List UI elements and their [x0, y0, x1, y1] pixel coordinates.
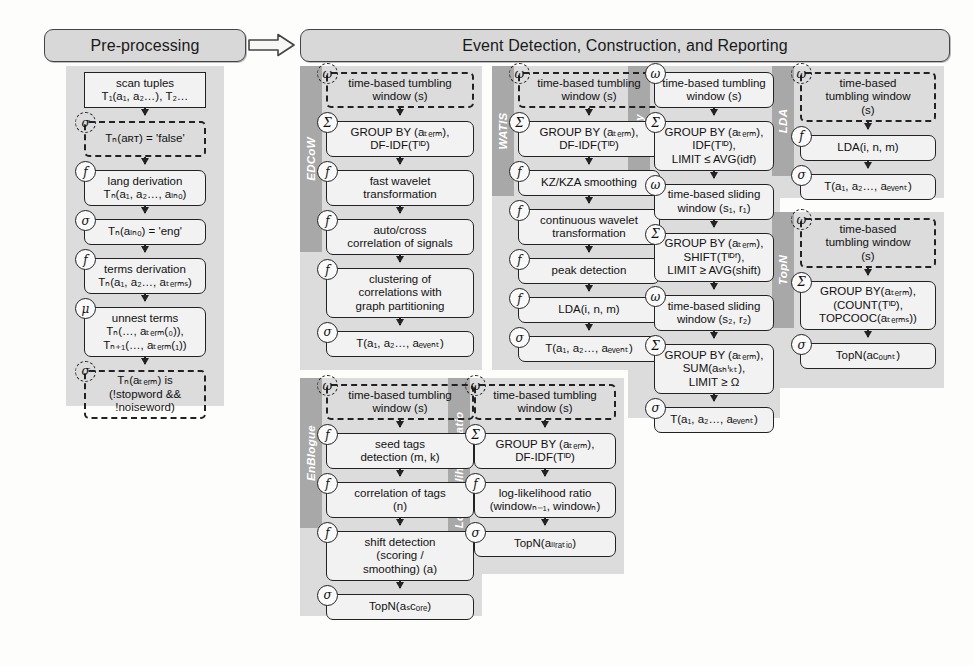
preprocessing-connector-6	[144, 357, 146, 364]
preprocessing-badge-4: f	[75, 249, 96, 270]
banner-preprocessing: Pre-processing	[44, 29, 246, 62]
col-enblogue-connector-4	[399, 581, 401, 588]
col-topn-badge-0: ω	[791, 209, 812, 230]
preprocessing-node-4-line-1: Tₙ(a₁, a₂…, aₜₑᵣₘₛ)	[98, 276, 192, 290]
col-edcow-badge-0: ω	[317, 63, 338, 84]
col-watis-node-0[interactable]: time-based tumblingwindow (s)	[518, 72, 660, 108]
col-watis-node-5[interactable]: LDA(i, n, m)	[518, 297, 660, 323]
col-lda-node-0-line-1: tumbling window	[825, 90, 910, 104]
col-enblogue-node-1[interactable]: seed tagsdetection (m, k)	[326, 433, 474, 469]
col-enblogue-connector-3	[399, 518, 401, 525]
col-edcow-badge-1: Σ	[317, 112, 338, 133]
col-edcow-node-4-line-1: correlations with	[358, 286, 441, 300]
preprocessing-node-5[interactable]: unnest termsTₙ(…, aₜₑᵣₘ(₀)),Tₙ₊₁(…, aₜₑᵣ…	[84, 307, 206, 357]
col-llr-node-0-line-1: window (s)	[518, 402, 573, 416]
col-shifty-node-6-line-0: T(a₁, a₂…, aₑᵥₑₙₜ)	[670, 413, 758, 427]
col-edcow-badge-2: f	[317, 161, 338, 182]
col-llr-node-2[interactable]: log-likelihood ratio(windowₙ₋₁, windowₙ)	[474, 482, 616, 518]
col-enblogue-badge-3: f	[317, 522, 338, 543]
col-watis-node-3[interactable]: continuous wavelettransformation	[518, 209, 660, 245]
col-shifty-node-0[interactable]: time-based tumblingwindow (s)	[654, 72, 774, 108]
col-edcow-node-0-line-1: window (s)	[373, 90, 428, 104]
col-llr-connector-3	[544, 518, 546, 525]
col-enblogue-node-4[interactable]: TopN(aₛᴄₒᵣₑ)	[326, 594, 474, 620]
col-watis-node-1[interactable]: GROUP BY (aₜₑᵣₘ),DF-IDF(Tᴵᴰ)	[518, 121, 660, 157]
col-edcow-node-1[interactable]: GROUP BY (aₜₑᵣₘ),DF-IDF(Tᴵᴰ)	[326, 121, 474, 157]
col-edcow-connector-4	[399, 255, 401, 262]
col-watis-node-5-line-0: LDA(i, n, m)	[558, 303, 619, 317]
col-shifty-node-4-line-0: time-based sliding	[668, 300, 761, 314]
preprocessing-connector-4	[144, 245, 146, 252]
col-lda-node-2-line-0: T(a₁, a₂…, aₑᵥₑₙₜ)	[824, 180, 912, 194]
preprocessing-node-4[interactable]: terms derivationTₙ(a₁, a₂…, aₜₑᵣₘₛ)	[84, 258, 206, 294]
column-label-watis-text: WATIS	[497, 112, 509, 149]
col-lda-node-2[interactable]: T(a₁, a₂…, aₑᵥₑₙₜ)	[800, 174, 936, 200]
col-edcow-connector-5	[399, 318, 401, 325]
col-enblogue-node-0[interactable]: time-based tumblingwindow (s)	[326, 384, 474, 420]
col-watis-connector-4	[588, 245, 590, 252]
col-watis-node-6[interactable]: T(a₁, a₂…, aₑᵥₑₙₜ)	[518, 336, 660, 362]
col-edcow-node-0[interactable]: time-based tumblingwindow (s)	[326, 72, 474, 108]
col-watis-node-2[interactable]: KZ/KZA smoothing	[518, 170, 660, 196]
col-watis-badge-1: Σ	[509, 112, 530, 133]
col-watis-node-4[interactable]: peak detection	[518, 258, 660, 284]
col-llr-connector-2	[544, 469, 546, 476]
col-watis-badge-2: f	[509, 161, 530, 182]
col-shifty-node-2[interactable]: time-based slidingwindow (s₁, r₁)	[654, 184, 774, 220]
col-topn-node-0-line-0: time-based	[840, 223, 897, 237]
flow-arrow-icon	[248, 33, 296, 57]
col-shifty-node-3[interactable]: GROUP BY (aₜₑᵣₘ),SHIFT(Tᴵᴰᶠ),LIMIT ≥ AVG…	[654, 233, 774, 283]
col-watis-node-3-line-1: transformation	[552, 227, 626, 241]
col-llr-node-1[interactable]: GROUP BY (aₜₑᵣₘ),DF-IDF(Tᴵᴰ)	[474, 433, 616, 469]
col-shifty-badge-0: ω	[645, 63, 666, 84]
col-shifty-node-3-line-0: GROUP BY (aₜₑᵣₘ),	[665, 237, 764, 251]
col-topn-node-2[interactable]: TopN(aᴄₒᵤₙₜ)	[800, 343, 936, 369]
col-llr-node-0-line-0: time-based tumbling	[493, 389, 597, 403]
col-shifty-node-1-line-0: GROUP BY (aₜₑᵣₘ),	[665, 126, 764, 140]
col-lda-node-1-line-0: LDA(i, n, m)	[837, 141, 898, 155]
col-shifty-node-1[interactable]: GROUP BY (aₜₑᵣₘ),IDF(Tᴵᴰ),LIMIT ≤ AVG(id…	[654, 121, 774, 171]
col-topn-node-0[interactable]: time-basedtumbling window(s)	[800, 218, 936, 268]
col-watis-node-4-line-0: peak detection	[552, 264, 627, 278]
col-topn-node-1[interactable]: GROUP BY(aₜₑᵣₘ),(COUNT(Tᴵᴰ),TOPCOOC(aₜₑᵣ…	[800, 281, 936, 331]
col-lda-badge-1: f	[791, 126, 812, 147]
col-topn-node-0-line-2: (s)	[861, 250, 874, 264]
col-edcow-node-4[interactable]: clustering ofcorrelations withgraph part…	[326, 268, 474, 318]
col-edcow-node-2[interactable]: fast wavelettransformation	[326, 170, 474, 206]
col-lda-connector-1	[867, 122, 869, 129]
col-edcow-node-5[interactable]: T(a₁, a₂…, aₑᵥₑₙₜ)	[326, 331, 474, 357]
col-shifty-connector-6	[713, 394, 715, 401]
col-llr-node-3[interactable]: TopN(aₗₗᵣₐₜᵢₒ)	[474, 531, 616, 557]
col-shifty-node-6[interactable]: T(a₁, a₂…, aₑᵥₑₙₜ)	[654, 407, 774, 433]
preprocessing-node-2[interactable]: lang derivationTₙ(a₁, a₂…, aₗₙₒ)	[84, 170, 206, 206]
preprocessing-node-6[interactable]: Tₙ(aₜₑᵣₘ) is(!stopword &&!noiseword)	[84, 370, 206, 420]
col-edcow-connector-1	[399, 108, 401, 115]
preprocessing-node-0-line-1: T₁(a₁, a₂…), T₂…	[102, 90, 189, 104]
preprocessing-node-3[interactable]: Tₙ(aₗₙₒ) = 'eng'	[84, 219, 206, 245]
preprocessing-node-1[interactable]: Tₙ(aʀᴛ) = 'false'	[84, 121, 206, 157]
column-label-topn-text: TopN	[777, 255, 789, 285]
col-llr-badge-1: Σ	[465, 424, 486, 445]
col-edcow-node-5-line-0: T(a₁, a₂…, aₑᵥₑₙₜ)	[356, 337, 444, 351]
col-llr-connector-1	[544, 420, 546, 427]
col-enblogue-node-1-line-0: seed tags	[375, 438, 425, 452]
col-shifty-node-5[interactable]: GROUP BY (aₜₑᵣₘ),SUM(aₛₕᶦₖₜ),LIMIT ≥ Ω	[654, 344, 774, 394]
col-shifty-badge-6: σ	[645, 398, 666, 419]
col-enblogue-node-3[interactable]: shift detection(scoring /smoothing) (a)	[326, 531, 474, 581]
col-edcow-node-3-line-0: auto/cross	[373, 224, 426, 238]
col-lda-node-0-line-2: (s)	[861, 104, 874, 118]
column-label-lda-text: LDA	[777, 109, 789, 134]
col-lda-node-1[interactable]: LDA(i, n, m)	[800, 135, 936, 161]
col-lda-node-0[interactable]: time-basedtumbling window(s)	[800, 72, 936, 122]
col-enblogue-node-2[interactable]: correlation of tags(n)	[326, 482, 474, 518]
col-watis-badge-0: ω	[509, 63, 530, 84]
preprocessing-node-3-line-0: Tₙ(aₗₙₒ) = 'eng'	[108, 225, 182, 239]
col-watis-badge-6: σ	[509, 327, 530, 348]
preprocessing-node-0[interactable]: scan tuplesT₁(a₁, a₂…), T₂…	[84, 72, 206, 108]
col-watis-connector-6	[588, 323, 590, 330]
col-edcow-node-4-line-0: clustering of	[369, 273, 431, 287]
col-shifty-connector-4	[713, 282, 715, 289]
col-shifty-node-4[interactable]: time-based slidingwindow (s₂, r₂)	[654, 295, 774, 331]
col-edcow-node-3[interactable]: auto/crosscorrelation of signals	[326, 219, 474, 255]
col-llr-node-0[interactable]: time-based tumblingwindow (s)	[474, 384, 616, 420]
